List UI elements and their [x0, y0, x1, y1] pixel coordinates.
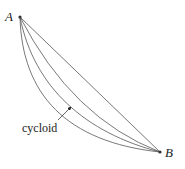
point-b-marker: [158, 150, 161, 153]
cycloid-label: cycloid: [22, 121, 57, 135]
point-b-label: B: [165, 145, 173, 160]
point-a-label: A: [4, 9, 13, 24]
point-a-marker: [18, 15, 21, 18]
brachistochrone-diagram: A B cycloid: [0, 0, 185, 169]
